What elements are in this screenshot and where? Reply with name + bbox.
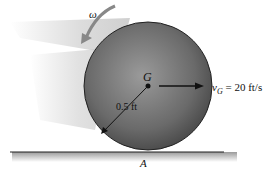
center-label: G (143, 70, 152, 85)
ground-shadow (12, 152, 237, 162)
radius-label: 0.5 ft (116, 101, 137, 112)
omega-label: ω (89, 8, 97, 20)
velocity-value: = 20 ft/s (223, 81, 263, 93)
contact-label: A (140, 157, 147, 169)
velocity-label: vG = 20 ft/s (212, 81, 262, 96)
